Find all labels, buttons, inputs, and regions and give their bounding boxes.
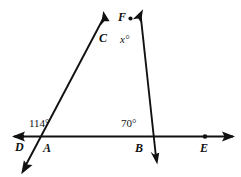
- angle-label-x: x°: [120, 34, 129, 45]
- arrowhead-northwest-icon: [101, 11, 110, 25]
- point-dot-D: [20, 134, 25, 139]
- ray-AC-segment: [24, 16, 105, 170]
- point-dot-E: [203, 134, 208, 139]
- point-label-D: D: [15, 141, 24, 153]
- angle-label-114: 114°: [29, 118, 50, 129]
- point-dot-F: [128, 16, 132, 20]
- point-label-C: C: [99, 32, 107, 44]
- point-label-E: E: [200, 142, 208, 154]
- angle-label-70: 70°: [121, 118, 136, 129]
- point-label-B: B: [135, 142, 143, 154]
- point-label-F: F: [118, 11, 126, 23]
- point-label-A: A: [43, 142, 51, 154]
- ray-through-A-and-C: [21, 11, 109, 174]
